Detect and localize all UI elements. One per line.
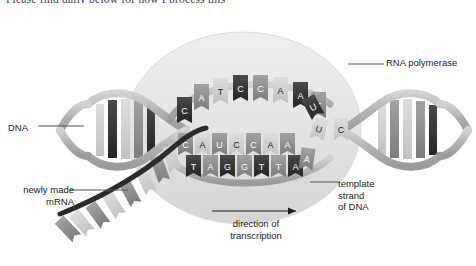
base-letter: T <box>191 162 197 172</box>
base-letter: C <box>250 140 257 150</box>
label-rna-polymerase: RNA polymerase <box>386 57 457 69</box>
base-letter: A <box>207 162 213 172</box>
base-letter: A <box>199 140 205 150</box>
label-newly-made-mrna: newly made mRNA <box>6 184 74 207</box>
base-letter: A <box>267 140 273 150</box>
base-letter: C <box>338 125 345 135</box>
base-letter: G <box>241 162 248 172</box>
label-dna: DNA <box>8 122 28 134</box>
base-letter: C <box>181 106 188 116</box>
base-letter: A <box>284 140 290 150</box>
base-letter: A <box>292 162 298 172</box>
base-letter: T <box>259 162 265 172</box>
base-letter: A <box>297 91 303 101</box>
base-letter: C <box>257 84 264 94</box>
base-letter: G <box>224 162 231 172</box>
label-template-strand: template strand of DNA <box>338 178 374 213</box>
base-letter: A <box>277 86 283 96</box>
base-letter: C <box>237 84 244 94</box>
base-letter: A <box>198 93 204 103</box>
base-letter: T <box>218 87 224 97</box>
base-letter: U <box>216 140 223 150</box>
figure-canvas: Please find daily below for how I proces… <box>0 0 476 266</box>
base-letter: T <box>276 162 282 172</box>
label-direction-of-transcription: direction of transcription <box>214 218 298 241</box>
base-letter: C <box>233 140 240 150</box>
